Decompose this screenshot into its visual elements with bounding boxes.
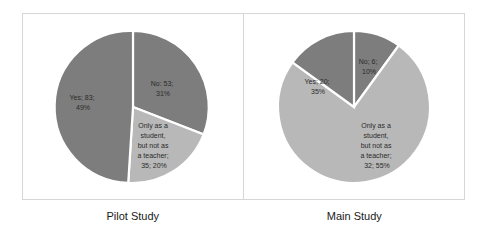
- pie-chart-pilot: No: 53; 31% Only as a student, but not a…: [53, 27, 213, 187]
- panel-pilot-study: No: 53; 31% Only as a student, but not a…: [23, 14, 244, 199]
- caption-pilot-study: Pilot Study: [22, 205, 244, 239]
- caption-main-study: Main Study: [244, 205, 466, 239]
- panel-main-study: No; 6; 10% Yes; 20; 35% Only as a studen…: [244, 14, 464, 199]
- pie-svg-pilot: No: 53; 31% Only as a student, but not a…: [53, 27, 213, 187]
- pie-chart-main: No; 6; 10% Yes; 20; 35% Only as a studen…: [274, 27, 434, 187]
- chart-frame: No: 53; 31% Only as a student, but not a…: [22, 13, 465, 200]
- caption-row: Pilot Study Main Study: [22, 205, 465, 239]
- pie-svg-main: No; 6; 10% Yes; 20; 35% Only as a studen…: [274, 27, 434, 187]
- figure-pie-charts: No: 53; 31% Only as a student, but not a…: [0, 0, 485, 244]
- pie-slice-pilot-yes: [55, 30, 133, 182]
